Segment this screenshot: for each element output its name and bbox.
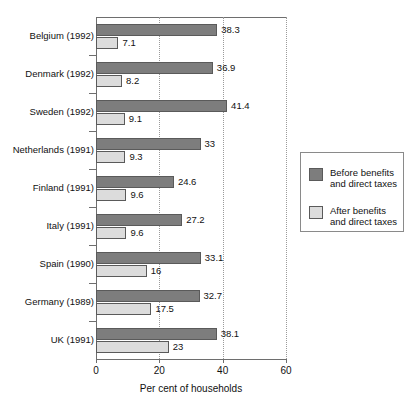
bar-value-label: 33.1	[205, 252, 224, 264]
x-tick-label-40: 40	[217, 365, 228, 377]
bar	[96, 176, 174, 188]
bar	[96, 341, 169, 353]
bar-value-label: 9.6	[130, 227, 143, 239]
bar-value-label: 23	[173, 341, 184, 353]
bar	[96, 62, 213, 74]
bar	[96, 265, 147, 277]
x-tick-0	[96, 359, 97, 363]
bar	[96, 100, 227, 112]
bar	[96, 214, 182, 226]
plot-area: 38.37.136.98.241.49.1339.324.69.627.29.6…	[96, 17, 286, 359]
category-tick-3	[89, 131, 96, 132]
category-label: Italy (1991)	[46, 220, 94, 231]
x-tick-40	[223, 359, 224, 363]
bar	[96, 290, 200, 302]
bar	[96, 189, 126, 201]
category-tick-1	[89, 55, 96, 56]
bar-value-label: 9.3	[129, 151, 142, 163]
x-tick-label-20: 20	[154, 365, 165, 377]
legend-item: Before benefits and direct taxes	[309, 167, 397, 189]
bar-value-label: 32.7	[204, 290, 223, 302]
bar-value-label: 38.1	[221, 328, 240, 340]
legend-label: After benefits and direct taxes	[330, 205, 397, 227]
bar	[96, 252, 201, 264]
legend-item: After benefits and direct taxes	[309, 205, 397, 227]
bar	[96, 37, 118, 49]
category-label: Denmark (1992)	[25, 68, 94, 79]
x-tick-label-60: 60	[280, 365, 291, 377]
bar	[96, 227, 126, 239]
bar	[96, 24, 217, 36]
category-label: Germany (1989)	[25, 296, 94, 307]
category-tick-6	[89, 245, 96, 246]
bar-value-label: 9.6	[130, 189, 143, 201]
legend-swatch-before	[309, 168, 323, 181]
bar	[96, 113, 125, 125]
bar-value-label: 24.6	[178, 176, 197, 188]
bar-value-label: 41.4	[231, 100, 250, 112]
category-tick-8	[89, 321, 96, 322]
category-axis-line	[96, 359, 286, 360]
bar-value-label: 7.1	[122, 37, 135, 49]
bar	[96, 151, 125, 163]
category-label: UK (1991)	[51, 334, 94, 345]
x-tick-label-0: 0	[93, 365, 99, 377]
bar-chart: Belgium (1992)Denmark (1992)Sweden (1992…	[0, 0, 412, 410]
bar-value-label: 27.2	[186, 214, 205, 226]
plot-frame-top	[96, 17, 286, 18]
x-tick-60	[286, 359, 287, 363]
bar	[96, 75, 122, 87]
category-label: Finland (1991)	[33, 182, 94, 193]
category-tick-7	[89, 283, 96, 284]
category-tick-5	[89, 207, 96, 208]
legend-swatch-after	[309, 206, 323, 219]
legend-label: Before benefits and direct taxes	[330, 167, 397, 189]
category-tick-2	[89, 93, 96, 94]
x-tick-20	[159, 359, 160, 363]
bar-value-label: 38.3	[221, 24, 240, 36]
bar	[96, 303, 151, 315]
bar-value-label: 33	[205, 138, 216, 150]
bar	[96, 328, 217, 340]
legend: Before benefits and direct taxesAfter be…	[300, 152, 404, 232]
category-tick-4	[89, 169, 96, 170]
bar-value-label: 16	[151, 265, 162, 277]
bar-value-label: 17.5	[155, 303, 174, 315]
category-label: Spain (1990)	[40, 258, 94, 269]
category-label: Netherlands (1991)	[13, 144, 94, 155]
x-axis-title: Per cent of households	[96, 383, 286, 394]
bar	[96, 138, 201, 150]
bar-value-label: 8.2	[126, 75, 139, 87]
bar-value-label: 36.9	[217, 62, 236, 74]
gridline-60	[286, 17, 287, 359]
category-label: Belgium (1992)	[30, 30, 94, 41]
category-label: Sweden (1992)	[30, 106, 94, 117]
bar-value-label: 9.1	[129, 113, 142, 125]
